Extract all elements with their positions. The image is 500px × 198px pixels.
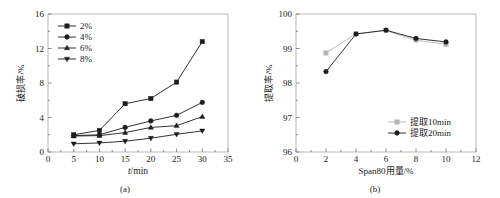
x-tick-label: 25 — [172, 154, 182, 164]
y-axis-title: 破损率/% — [15, 64, 26, 102]
series-line-2% — [74, 42, 203, 135]
x-tick-label: 4 — [354, 154, 359, 164]
data-point-marker-circle — [354, 32, 359, 37]
data-point-marker-square — [200, 39, 204, 43]
series-line-4% — [74, 102, 203, 135]
legend-label: 4% — [80, 32, 93, 42]
x-tick-label: 20 — [146, 154, 156, 164]
legend-label: 提取10min — [410, 117, 452, 127]
data-point-marker-triangle-down — [71, 142, 76, 147]
y-tick-label: 99 — [283, 44, 293, 54]
panel-a: 051015202530350481216t/min破损率/%2%4%6%8% … — [0, 0, 250, 198]
data-point-marker-circle — [395, 131, 400, 136]
x-tick-label: 30 — [198, 154, 208, 164]
x-axis-title: Span80用量/% — [359, 166, 415, 176]
data-point-marker-circle — [414, 36, 419, 41]
data-point-marker-circle — [65, 35, 70, 40]
legend-label: 6% — [80, 43, 93, 53]
x-tick-label: 6 — [384, 154, 389, 164]
data-point-marker-square — [324, 51, 328, 55]
y-tick-label: 96 — [283, 147, 293, 157]
data-point-marker-circle — [148, 119, 153, 124]
y-tick-label: 4 — [40, 113, 45, 123]
chart-b: 02468101296979899100Span80用量/%提取率/%提取10m… — [250, 0, 500, 198]
y-tick-label: 16 — [35, 9, 45, 19]
data-point-marker-square — [174, 80, 178, 84]
figure-container: 051015202530350481216t/min破损率/%2%4%6%8% … — [0, 0, 500, 198]
data-point-marker-square — [123, 102, 127, 106]
x-tick-label: 0 — [294, 154, 299, 164]
legend-label: 8% — [80, 54, 93, 64]
x-tick-label: 35 — [224, 154, 234, 164]
legend-label: 提取20min — [410, 128, 452, 138]
legend-label: 2% — [80, 21, 93, 31]
x-tick-label: 12 — [472, 154, 481, 164]
data-point-marker-square — [65, 24, 69, 28]
data-point-marker-circle — [444, 40, 449, 45]
x-tick-label: 5 — [71, 154, 76, 164]
data-point-marker-circle — [384, 28, 389, 33]
chart-a: 051015202530350481216t/min破损率/%2%4%6%8% — [0, 0, 250, 198]
y-tick-label: 8 — [40, 78, 45, 88]
y-tick-label: 0 — [40, 147, 45, 157]
y-tick-label: 100 — [279, 9, 293, 19]
x-tick-label: 10 — [442, 154, 452, 164]
series-line-8% — [74, 131, 203, 144]
data-point-marker-circle — [324, 69, 329, 74]
data-point-marker-circle — [123, 125, 128, 130]
panel-b: 02468101296979899100Span80用量/%提取率/%提取10m… — [250, 0, 500, 198]
y-axis-title: 提取率/% — [263, 64, 274, 102]
data-point-marker-circle — [174, 113, 179, 118]
y-tick-label: 12 — [35, 44, 44, 54]
data-point-marker-triangle-up — [200, 114, 205, 119]
series-line-提取20min — [326, 30, 446, 71]
panel-a-caption: (a) — [0, 184, 250, 194]
data-point-marker-square — [395, 120, 399, 124]
panel-b-caption: (b) — [250, 184, 500, 194]
y-tick-label: 97 — [283, 113, 293, 123]
x-tick-label: 2 — [324, 154, 329, 164]
y-tick-label: 98 — [283, 78, 293, 88]
x-tick-label: 8 — [414, 154, 419, 164]
x-tick-label: 15 — [121, 154, 131, 164]
data-point-marker-circle — [200, 100, 205, 105]
data-point-marker-square — [149, 96, 153, 100]
x-tick-label: 0 — [46, 154, 51, 164]
x-tick-label: 10 — [95, 154, 105, 164]
data-point-marker-square — [97, 128, 101, 132]
x-axis-title: t/min — [128, 166, 148, 176]
